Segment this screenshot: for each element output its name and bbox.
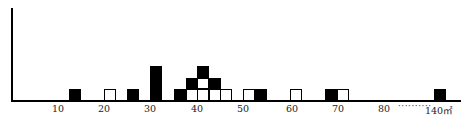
- x-tick-label: 20: [98, 103, 110, 114]
- black-square: [174, 89, 186, 101]
- black-square: [69, 89, 81, 101]
- black-square: [325, 89, 337, 101]
- white-square: [290, 89, 302, 101]
- white-square: [220, 89, 232, 101]
- x-tick-label: 50: [237, 103, 249, 114]
- axis-break-dots: ··········: [398, 101, 432, 111]
- black-square: [209, 78, 221, 90]
- black-square: [434, 89, 446, 101]
- x-tick-label: 60: [286, 103, 298, 114]
- x-tick-label: 10: [52, 103, 64, 114]
- x-tick-label: 80: [378, 103, 390, 114]
- dot-histogram-chart: 1020304050607080140㎡ ··········: [0, 0, 466, 120]
- y-axis: [11, 8, 13, 101]
- x-tick-label: 30: [144, 103, 156, 114]
- white-square: [197, 89, 209, 101]
- x-tick-label: 70: [332, 103, 344, 114]
- black-square: [127, 89, 139, 101]
- white-square: [337, 89, 349, 101]
- x-tick-label: 40: [191, 103, 203, 114]
- black-square: [150, 66, 162, 78]
- black-square: [197, 66, 209, 78]
- white-square: [243, 89, 255, 101]
- black-square: [150, 89, 162, 101]
- black-square: [150, 78, 162, 90]
- white-square: [197, 78, 209, 90]
- black-square: [255, 89, 267, 101]
- white-square: [104, 89, 116, 101]
